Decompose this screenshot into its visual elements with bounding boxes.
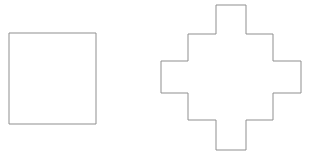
shapes-canvas [0, 0, 319, 160]
square-shape [9, 33, 96, 124]
shapes-svg [0, 0, 319, 160]
